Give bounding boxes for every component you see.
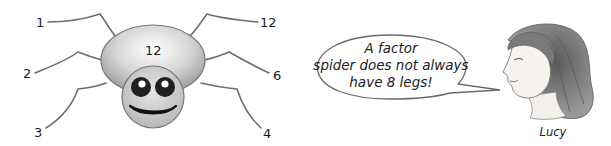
leg-left-top: [48, 14, 116, 37]
leg-right-bottom: [201, 83, 261, 128]
leg-right-middle: [204, 52, 269, 73]
spider-body-number: 12: [145, 43, 162, 58]
speech-line-2: spider does not always: [313, 57, 468, 73]
leg-label-left-bottom: 3: [34, 125, 42, 140]
leg-label-right-top: 12: [260, 15, 277, 30]
leg-right-top: [190, 14, 258, 36]
character-name-label: Lucy: [540, 125, 567, 139]
leg-label-right-bottom: 4: [263, 126, 271, 141]
spider-face: [122, 66, 184, 128]
leg-label-left-middle: 2: [23, 66, 31, 81]
speech-line-3: have 8 legs!: [349, 74, 432, 90]
leg-label-left-top: 1: [36, 15, 44, 30]
lucy-portrait: [503, 24, 593, 119]
leg-left-bottom: [46, 83, 106, 128]
leg-label-right-middle: 6: [273, 68, 281, 83]
leg-left-middle: [35, 52, 102, 73]
illustration: 1 2 3 12 6 4 12 A factor spider does not…: [0, 0, 611, 146]
speech-line-1: A factor: [363, 40, 419, 56]
